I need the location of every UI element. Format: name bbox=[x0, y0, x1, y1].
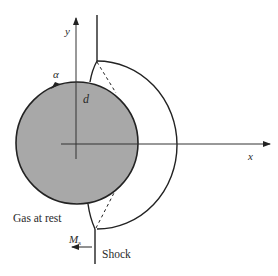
mach-stem-top bbox=[90, 61, 97, 82]
cylinder bbox=[16, 82, 138, 204]
shock-diffraction-diagram: y x α d Gas at rest Ms Shock bbox=[0, 0, 278, 276]
mach-stem-bottom bbox=[88, 204, 95, 229]
x-axis-label: x bbox=[247, 150, 253, 162]
shock-label: Shock bbox=[102, 248, 131, 260]
alpha-label: α bbox=[53, 68, 59, 80]
y-axis-label: y bbox=[64, 25, 70, 37]
gas-at-rest-label: Gas at rest bbox=[13, 212, 62, 224]
d-label: d bbox=[83, 92, 90, 106]
mach-label: Ms bbox=[68, 233, 81, 247]
